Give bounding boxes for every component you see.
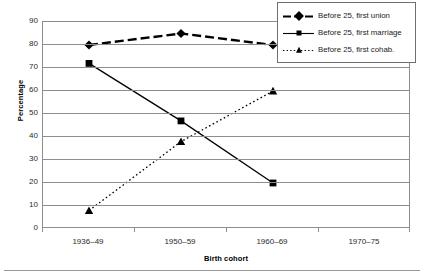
gridline-20 [43,182,409,183]
diamond-marker-icon [294,11,304,21]
x-tick-mark [134,228,135,232]
diamond-marker-icon [176,29,185,38]
gridline-70 [43,67,409,68]
x-tick-mark [409,228,410,232]
y-tick-label: 10 [12,201,38,209]
y-tick-label: 90 [12,17,38,25]
x-tick-mark [226,228,227,232]
x-tick-mark [42,228,43,232]
square-marker-icon [270,180,277,187]
legend-swatch-dashed-diamond [283,10,314,21]
legend-label: Before 25, first union [318,11,390,20]
triangle-marker-icon [296,46,302,52]
y-axis-tick-labels: 90 80 70 60 50 40 30 20 10 0 [12,0,38,276]
y-tick-label: 30 [12,155,38,163]
y-tick-label: 70 [12,63,38,71]
square-marker-icon [178,118,185,125]
gridline-60 [43,90,409,91]
triangle-marker-icon [177,137,185,145]
diamond-marker-icon [84,40,93,49]
x-tick-mark [318,228,319,232]
chart-figure: Percentage 90 80 70 60 50 40 30 20 10 0 … [0,0,424,276]
triangle-marker-icon [85,206,93,214]
y-tick-label: 50 [12,109,38,117]
gridline-50 [43,113,409,114]
x-tick-label: 1950–59 [134,237,226,246]
x-tick-label: 1970–75 [318,237,410,246]
x-tick-label: 1936–49 [42,237,134,246]
x-tick-label: 1960–69 [226,237,318,246]
legend-item-first-cohab: Before 25, first cohab. [278,41,415,58]
legend-item-first-union: Before 25, first union [278,7,415,24]
gridline-30 [43,159,409,160]
legend-swatch-dotted-triangle [283,44,314,55]
series-3 [85,87,277,214]
series-1 [84,29,277,50]
y-tick-label: 60 [12,86,38,94]
gridline-10 [43,205,409,206]
y-tick-label: 80 [12,40,38,48]
x-axis-title: Birth cohort [42,254,410,263]
square-marker-icon [86,60,93,67]
legend-label: Before 25, first marriage [318,28,402,37]
legend-swatch-solid-square [283,27,314,38]
y-tick-label: 0 [12,224,38,232]
y-tick-label: 20 [12,178,38,186]
legend-label: Before 25, first cohab. [318,45,394,54]
legend-item-first-marriage: Before 25, first marriage [278,24,415,41]
square-marker-icon [296,30,301,35]
gridline-40 [43,136,409,137]
y-tick-label: 40 [12,132,38,140]
series-line [89,91,273,211]
series-2 [86,60,277,186]
footer-divider [4,270,420,271]
chart-legend: Before 25, first union Before 25, first … [277,2,416,63]
